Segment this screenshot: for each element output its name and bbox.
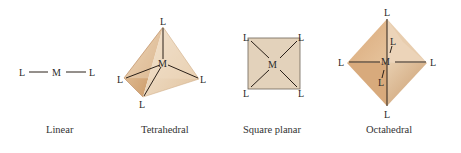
tetrahedron-face-back	[124, 27, 199, 79]
caption-octahedral: Octahedral	[366, 124, 412, 135]
ligand-label: L	[160, 16, 166, 27]
metal-label: M	[158, 58, 167, 69]
ligand-label: L	[298, 88, 304, 99]
metal-label: M	[52, 67, 61, 78]
caption-tetrahedral: Tetrahedral	[141, 124, 189, 135]
ligand-label: L	[384, 109, 390, 120]
ligand-label: L	[390, 36, 396, 47]
ligand-label: L	[139, 99, 145, 110]
tetrahedral-geometry: L M L L L Tetrahedral	[117, 16, 206, 135]
caption-square-planar: Square planar	[243, 124, 302, 135]
octahedron-face-br	[387, 62, 427, 106]
ligand-label: L	[378, 77, 384, 88]
ligand-label: L	[338, 57, 344, 68]
metal-label: M	[268, 59, 277, 70]
ligand-label: L	[117, 74, 123, 85]
ligand-label: L	[243, 32, 249, 43]
ligand-label: L	[430, 57, 436, 68]
caption-linear: Linear	[46, 124, 74, 135]
ligand-label: L	[298, 32, 304, 43]
octahedral-geometry: L L L M L L L Octahedral	[338, 7, 436, 135]
ligand-label: L	[200, 74, 206, 85]
metal-label: M	[381, 56, 390, 67]
ligand-label: L	[19, 67, 25, 78]
ligand-label: L	[243, 88, 249, 99]
linear-geometry: L M L Linear	[19, 67, 95, 135]
square-planar-geometry: L L M L L Square planar	[243, 32, 304, 135]
ligand-label: L	[89, 67, 95, 78]
ligand-label: L	[384, 7, 390, 18]
